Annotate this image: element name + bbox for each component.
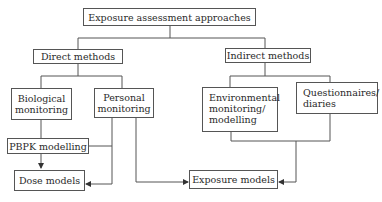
node-label-line: diaries bbox=[303, 98, 377, 109]
node-label-line: monitoring bbox=[97, 103, 150, 114]
node-biological-monitoring: Biological monitoring bbox=[11, 88, 72, 120]
node-label: Direct methods bbox=[41, 51, 115, 62]
node-dose-models: Dose models bbox=[14, 170, 85, 191]
node-label-line: Personal bbox=[103, 92, 145, 103]
node-label-line: Biological bbox=[18, 93, 66, 104]
node-label: Dose models bbox=[19, 175, 80, 186]
node-environmental-monitoring-modelling: Environmental monitoring/ modelling bbox=[202, 87, 278, 132]
node-indirect-methods: Indirect methods bbox=[225, 48, 311, 63]
node-label-line: Environmental bbox=[209, 92, 277, 103]
root-node-label: Exposure assessment approaches bbox=[88, 12, 250, 23]
node-label-line: Questionnaires/ bbox=[303, 87, 377, 98]
node-exposure-models: Exposure models bbox=[189, 170, 278, 189]
root-node-exposure-assessment-approaches: Exposure assessment approaches bbox=[83, 8, 256, 26]
node-label: PBPK modelling bbox=[9, 141, 87, 152]
node-label-line: monitoring/ bbox=[209, 103, 277, 114]
node-label-line: modelling bbox=[209, 114, 277, 125]
node-label-line: monitoring bbox=[15, 104, 68, 115]
node-personal-monitoring: Personal monitoring bbox=[94, 88, 154, 118]
node-label: Indirect methods bbox=[227, 50, 310, 61]
node-questionnaires-diaries: Questionnaires/ diaries bbox=[296, 82, 378, 114]
node-pbpk-modelling: PBPK modelling bbox=[7, 138, 89, 154]
node-direct-methods: Direct methods bbox=[33, 49, 123, 64]
node-label: Exposure models bbox=[192, 174, 275, 185]
